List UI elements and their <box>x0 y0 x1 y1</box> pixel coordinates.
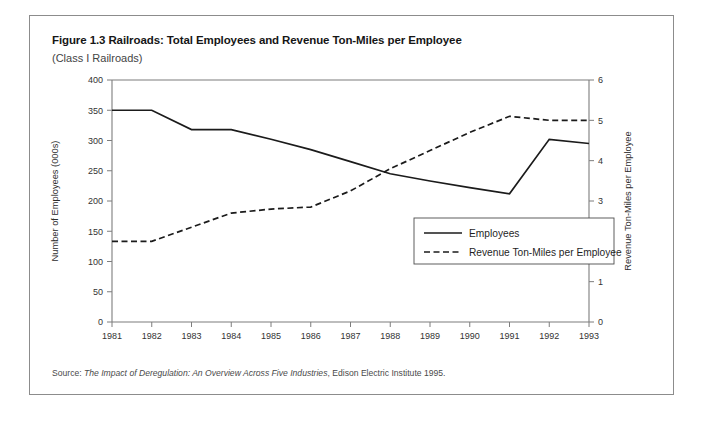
y-axis-tick-label: 400 <box>88 75 103 85</box>
y-axis-tick-label: 150 <box>88 227 103 237</box>
x-axis-tick-label: 1983 <box>181 331 201 341</box>
y2-axis-title: Revenue Ton-Miles per Employee <box>623 131 633 270</box>
x-axis-tick-label: 1986 <box>301 331 321 341</box>
source-title: The Impact of Deregulation: An Overview … <box>84 368 327 378</box>
y2-axis-tick-label: 0 <box>598 317 603 327</box>
y-axis-title: Number of Employees (000s) <box>50 141 60 262</box>
x-axis-title: Years <box>339 356 363 358</box>
x-axis-tick-label: 1990 <box>460 331 480 341</box>
x-axis-tick-label: 1989 <box>420 331 440 341</box>
x-axis-tick-label: 1984 <box>221 331 241 341</box>
figure-subtitle: (Class I Railroads) <box>52 52 142 64</box>
y2-axis-tick-label: 3 <box>598 196 603 206</box>
y-axis-tick-label: 50 <box>93 287 103 297</box>
y2-axis-tick-label: 4 <box>598 156 603 166</box>
x-axis-tick-label: 1985 <box>261 331 281 341</box>
x-axis-tick-label: 1991 <box>499 331 519 341</box>
x-axis-tick-label: 1992 <box>539 331 559 341</box>
legend-label-1: Employees <box>469 228 519 239</box>
source-suffix: , Edison Electric Institute 1995. <box>327 368 445 378</box>
y-axis-tick-label: 300 <box>88 136 103 146</box>
y-axis-tick-label: 350 <box>88 106 103 116</box>
source-note: Source: The Impact of Deregulation: An O… <box>52 368 445 378</box>
y-axis-tick-label: 250 <box>88 166 103 176</box>
y-axis-tick-label: 100 <box>88 257 103 267</box>
y2-axis-tick-label: 5 <box>598 116 603 126</box>
y2-axis-tick-label: 6 <box>598 75 603 85</box>
y2-axis-tick-label: 1 <box>598 277 603 287</box>
x-axis-tick-label: 1988 <box>380 331 400 341</box>
x-axis-tick-label: 1981 <box>102 331 122 341</box>
source-prefix: Source: <box>52 368 84 378</box>
y-axis-tick-label: 0 <box>98 317 103 327</box>
legend-label-2: Revenue Ton-Miles per Employee <box>469 247 622 258</box>
series-line-1 <box>112 110 589 193</box>
chart-plot-area: 0501001502002503003504000123456198119821… <box>38 68 667 358</box>
figure-frame: Figure 1.3 Railroads: Total Employees an… <box>29 15 674 395</box>
y-axis-tick-label: 200 <box>88 196 103 206</box>
x-axis-tick-label: 1987 <box>340 331 360 341</box>
figure-title: Figure 1.3 Railroads: Total Employees an… <box>52 34 462 46</box>
x-axis-tick-label: 1993 <box>579 331 599 341</box>
line-chart: 0501001502002503003504000123456198119821… <box>38 68 667 358</box>
x-axis-tick-label: 1982 <box>142 331 162 341</box>
